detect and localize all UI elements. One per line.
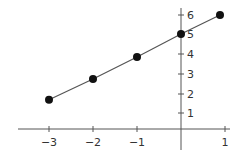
line-chart: −3−2−11123456	[0, 0, 242, 158]
data-point-marker	[216, 11, 224, 19]
y-tick-label: 4	[187, 48, 194, 61]
y-tick-label: 2	[187, 88, 194, 101]
x-tick-label: −1	[129, 136, 145, 149]
x-tick-label: 1	[222, 136, 229, 149]
x-tick-label: −3	[41, 136, 57, 149]
data-point-marker	[45, 96, 53, 104]
axes	[18, 8, 230, 150]
x-tick-label: −2	[85, 136, 101, 149]
data-point-marker	[133, 53, 141, 61]
data-series	[45, 11, 224, 104]
ticks: −3−2−11123456	[41, 9, 229, 149]
y-tick-label: 1	[187, 107, 194, 120]
y-tick-label: 6	[187, 9, 194, 22]
data-point-marker	[177, 30, 185, 38]
data-point-marker	[89, 75, 97, 83]
y-tick-label: 3	[187, 68, 194, 81]
